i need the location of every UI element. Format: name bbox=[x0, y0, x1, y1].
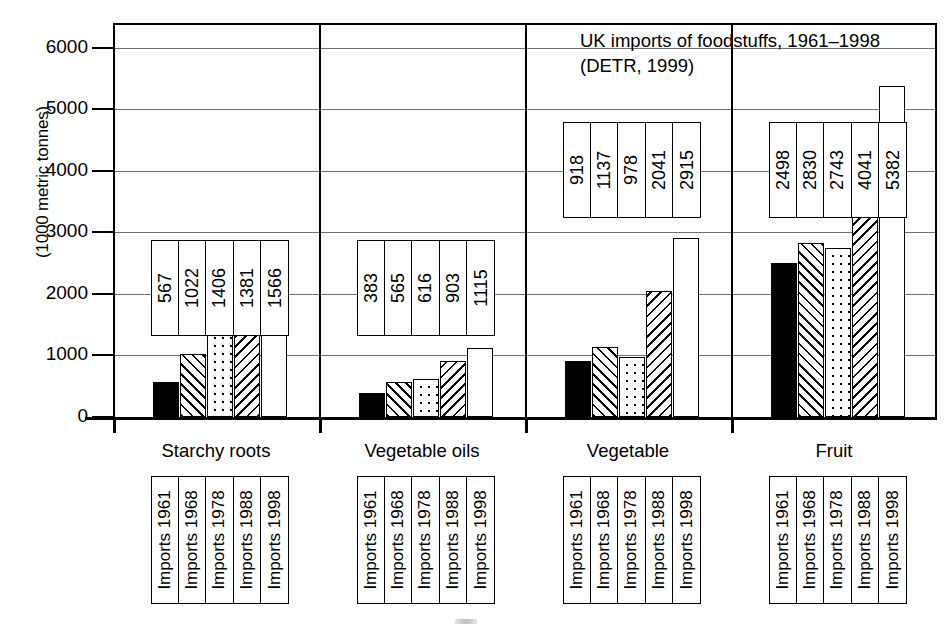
data-label-value: 383 bbox=[360, 273, 381, 303]
data-label-cell: 2041 bbox=[646, 123, 673, 217]
bars-layer bbox=[113, 23, 937, 417]
data-label-cell: 1022 bbox=[179, 241, 206, 335]
data-label-value: 1381 bbox=[236, 268, 257, 308]
chart-figure: (1000 metric tonnes) 0100020003000400050… bbox=[0, 0, 950, 631]
data-label-value: 1137 bbox=[594, 151, 615, 190]
legend-item: Imports 1988 bbox=[440, 477, 467, 603]
legend-item: Imports 1968 bbox=[385, 477, 412, 603]
bar-starchy-roots-imports-1961 bbox=[153, 382, 180, 417]
bar-vegetable-imports-1998 bbox=[673, 238, 700, 417]
legend-item: Imports 1988 bbox=[646, 477, 673, 603]
data-label-cell: 1406 bbox=[206, 241, 233, 335]
y-tick-6000 bbox=[92, 47, 113, 49]
data-label-value: 918 bbox=[566, 155, 587, 185]
bar-fruit-imports-1968 bbox=[798, 243, 825, 417]
data-label-cell: 1115 bbox=[467, 241, 494, 335]
data-label-cell: 565 bbox=[385, 241, 412, 335]
data-label-cell: 2830 bbox=[797, 123, 824, 217]
bar-vegetable-imports-1978 bbox=[619, 357, 646, 417]
data-label-value: 2498 bbox=[772, 150, 793, 190]
legend-item-label: Imports 1961 bbox=[773, 490, 793, 589]
legend-item: Imports 1968 bbox=[179, 477, 206, 603]
legend-item: Imports 1961 bbox=[358, 477, 385, 603]
data-label-cell: 2743 bbox=[824, 123, 851, 217]
bar-vegetable-oils-imports-1968 bbox=[386, 382, 413, 417]
legend-item: Imports 1978 bbox=[618, 477, 645, 603]
legend-item-label: Imports 1968 bbox=[388, 490, 408, 589]
legend-item: Imports 1978 bbox=[206, 477, 233, 603]
data-label-value: 567 bbox=[154, 273, 175, 303]
bar-vegetable-imports-1988 bbox=[646, 291, 673, 417]
legend-item: Imports 1998 bbox=[673, 477, 700, 603]
legend-item-label: Imports 1988 bbox=[237, 490, 257, 589]
bar-starchy-roots-imports-1988 bbox=[234, 332, 261, 417]
legend-item: Imports 1998 bbox=[879, 477, 906, 603]
legend-item: Imports 1961 bbox=[152, 477, 179, 603]
bar-vegetable-oils-imports-1998 bbox=[467, 348, 494, 417]
legend-item-label: Imports 1978 bbox=[415, 490, 435, 589]
y-tick-label-3000: 3000 bbox=[0, 220, 88, 242]
bar-vegetable-oils-imports-1988 bbox=[440, 361, 467, 417]
group-separator-tick-1 bbox=[319, 417, 322, 433]
y-tick-label-4000: 4000 bbox=[0, 159, 88, 181]
data-label-value: 616 bbox=[415, 273, 436, 303]
bar-starchy-roots-imports-1968 bbox=[180, 354, 207, 417]
legend-item: Imports 1961 bbox=[564, 477, 591, 603]
y-tick-label-1000: 1000 bbox=[0, 343, 88, 365]
data-label-cell: 567 bbox=[152, 241, 179, 335]
data-label-value: 1406 bbox=[209, 268, 230, 308]
bar-vegetable-imports-1968 bbox=[592, 347, 619, 417]
y-tick-5000 bbox=[92, 108, 113, 110]
legend-item-label: Imports 1988 bbox=[443, 490, 463, 589]
data-label-value: 978 bbox=[621, 155, 642, 185]
group-separator-tick-2 bbox=[525, 417, 528, 433]
data-label-cell: 1381 bbox=[234, 241, 261, 335]
bar-fruit-imports-1978 bbox=[825, 248, 852, 417]
y-tick-label-5000: 5000 bbox=[0, 97, 88, 119]
legend-item: Imports 1968 bbox=[797, 477, 824, 603]
legend-item-label: Imports 1961 bbox=[567, 490, 587, 589]
x-axis-line bbox=[85, 417, 937, 420]
legend-item-label: Imports 1961 bbox=[361, 490, 381, 589]
legend-box-vegetable-oils: Imports 1961Imports 1968Imports 1978Impo… bbox=[357, 476, 496, 604]
data-label-value: 2915 bbox=[676, 150, 697, 190]
legend-item-label: Imports 1968 bbox=[800, 490, 820, 589]
group-separator-tick-3 bbox=[731, 417, 734, 433]
chart-title: UK imports of foodstuffs, 1961–1998 (DET… bbox=[580, 28, 880, 78]
data-label-cell: 903 bbox=[440, 241, 467, 335]
data-label-cell: 2915 bbox=[673, 123, 700, 217]
legend-item-label: Imports 1968 bbox=[182, 490, 202, 589]
category-label-vegetable-oils: Vegetable oils bbox=[319, 440, 525, 462]
y-axis-bottom-tick bbox=[113, 417, 116, 433]
y-tick-3000 bbox=[92, 231, 113, 233]
legend-item: Imports 1978 bbox=[824, 477, 851, 603]
data-label-cell: 4041 bbox=[852, 123, 879, 217]
data-label-cell: 978 bbox=[618, 123, 645, 217]
legend-box-vegetable: Imports 1961Imports 1968Imports 1978Impo… bbox=[563, 476, 702, 604]
legend-item-label: Imports 1978 bbox=[827, 490, 847, 589]
data-label-box-starchy-roots: 5671022140613811566 bbox=[151, 240, 290, 336]
legend-item-label: Imports 1978 bbox=[621, 490, 641, 589]
y-tick-label-2000: 2000 bbox=[0, 282, 88, 304]
data-label-value: 5382 bbox=[882, 150, 903, 190]
legend-item: Imports 1988 bbox=[234, 477, 261, 603]
bar-vegetable-oils-imports-1978 bbox=[413, 379, 440, 417]
data-label-cell: 2498 bbox=[770, 123, 797, 217]
legend-item-label: Imports 1998 bbox=[471, 490, 491, 589]
chart-title-line-1: UK imports of foodstuffs, 1961–1998 bbox=[580, 28, 880, 53]
legend-item-label: Imports 1988 bbox=[855, 490, 875, 589]
legend-box-starchy-roots: Imports 1961Imports 1968Imports 1978Impo… bbox=[151, 476, 290, 604]
data-label-box-fruit: 24982830274340415382 bbox=[769, 122, 908, 218]
data-label-cell: 1137 bbox=[591, 123, 618, 217]
data-label-value: 903 bbox=[442, 273, 463, 303]
legend-item-label: Imports 1988 bbox=[649, 490, 669, 589]
legend-item-label: Imports 1998 bbox=[265, 490, 285, 589]
legend-item: Imports 1988 bbox=[852, 477, 879, 603]
legend-item: Imports 1968 bbox=[591, 477, 618, 603]
data-label-cell: 616 bbox=[412, 241, 439, 335]
y-tick-2000 bbox=[92, 293, 113, 295]
category-label-vegetable: Vegetable bbox=[525, 440, 731, 462]
legend-item: Imports 1961 bbox=[770, 477, 797, 603]
data-label-cell: 383 bbox=[358, 241, 385, 335]
y-tick-label-6000: 6000 bbox=[0, 36, 88, 58]
